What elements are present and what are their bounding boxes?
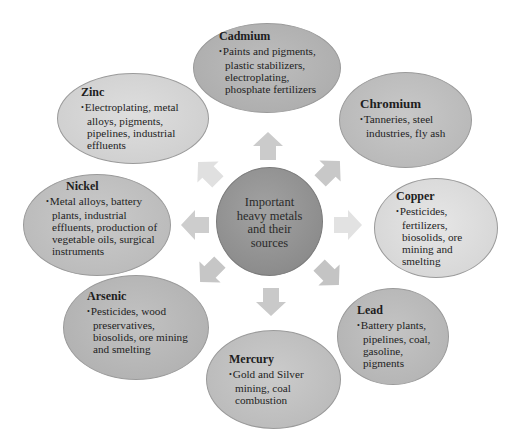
arrow-down-icon bbox=[256, 288, 286, 316]
node-zinc-text: Zinc Electroplating, metal alloys, pigme… bbox=[81, 86, 193, 151]
node-title: Arsenic bbox=[87, 290, 191, 302]
node-cadmium-text: Cadmium Paints and pigments, plastic sta… bbox=[219, 30, 337, 95]
center-label-line: Important bbox=[217, 196, 322, 210]
node-item: Pesticides, fertilizers, biosolids, ore … bbox=[396, 205, 486, 267]
arrow-up-right-icon bbox=[309, 150, 350, 191]
arrow-right-icon bbox=[334, 210, 362, 240]
node-item: Paints and pigments, plastic stabilizers… bbox=[219, 45, 337, 95]
node-title: Mercury bbox=[229, 353, 329, 365]
arrow-down-left-icon bbox=[189, 251, 230, 292]
node-item: Battery plants, pipelines, coal, gasolin… bbox=[357, 319, 445, 369]
node-nickel-text: Nickel Metal alloys, battery plants, ind… bbox=[46, 180, 158, 258]
node-item: Pesticides, wood preservatives, biosolid… bbox=[87, 305, 191, 355]
center-label: Important heavy metals and their sources bbox=[217, 196, 322, 250]
arrow-left-icon bbox=[181, 210, 209, 240]
node-item: Gold and Silver mining, coal combustion bbox=[229, 368, 329, 406]
arrow-down-right-icon bbox=[308, 254, 349, 295]
node-title: Chromium bbox=[360, 98, 464, 110]
node-title: Lead bbox=[357, 304, 445, 316]
node-chromium-text: Chromium Tanneries, steel industries, fl… bbox=[360, 98, 464, 139]
node-title: Cadmium bbox=[219, 30, 337, 42]
node-item: Tanneries, steel industries, fly ash bbox=[360, 113, 464, 139]
node-arsenic-text: Arsenic Pesticides, wood preservatives, … bbox=[87, 290, 191, 355]
node-item: Electroplating, metal alloys, pigments, … bbox=[81, 101, 193, 151]
center-label-line: sources bbox=[217, 237, 322, 251]
node-lead-text: Lead Battery plants, pipelines, coal, ga… bbox=[357, 304, 445, 369]
center-node: Important heavy metals and their sources bbox=[216, 167, 323, 276]
arrow-up-icon bbox=[253, 132, 283, 160]
center-label-line: and their bbox=[217, 223, 322, 237]
center-label-line: heavy metals bbox=[217, 210, 322, 224]
arrow-up-left-icon bbox=[187, 151, 228, 192]
node-copper-text: Copper Pesticides, fertilizers, biosolid… bbox=[396, 190, 486, 268]
node-title: Zinc bbox=[81, 86, 193, 98]
node-mercury-text: Mercury Gold and Silver mining, coal com… bbox=[229, 353, 329, 406]
node-title: Copper bbox=[396, 190, 486, 202]
node-title: Nickel bbox=[46, 180, 158, 192]
node-item: Metal alloys, battery plants, industrial… bbox=[46, 195, 158, 257]
